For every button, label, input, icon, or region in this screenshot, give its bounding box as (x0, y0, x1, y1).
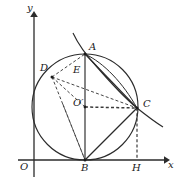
label-E: E (73, 65, 80, 75)
label-D: D (40, 63, 48, 73)
label-Oprime: O′ (73, 98, 83, 108)
segment-DC (52, 77, 137, 108)
point-A (84, 53, 87, 56)
geometry-figure (0, 0, 179, 188)
label-O: O (20, 162, 28, 172)
label-H: H (132, 163, 141, 173)
point-Oprime (84, 106, 87, 109)
segment-AC (85, 54, 137, 108)
label-A: A (89, 42, 96, 52)
label-x: x (168, 160, 174, 170)
axes-group (18, 11, 170, 177)
label-y: y (27, 3, 33, 13)
segment-OprimeC (85, 107, 137, 108)
label-B: B (81, 163, 88, 173)
point-D (51, 76, 54, 79)
dashed-lines-group (52, 54, 137, 160)
label-C: C (143, 99, 151, 109)
figure-canvas: y x O A B C D E H O′ (0, 0, 179, 188)
segment-BC (85, 108, 137, 160)
point-C (136, 107, 139, 110)
